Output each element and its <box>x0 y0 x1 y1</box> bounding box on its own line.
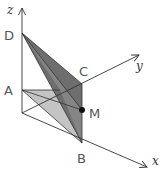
point-M-dot <box>79 107 85 113</box>
geometry-diagram: z y x D A C M B <box>0 0 163 176</box>
point-D-label: D <box>4 28 14 43</box>
point-M-label: M <box>89 106 100 121</box>
y-axis-label: y <box>135 59 143 73</box>
point-C-label: C <box>79 64 88 79</box>
point-B-label: B <box>77 151 86 166</box>
x-axis-label: x <box>152 154 159 168</box>
z-axis-label: z <box>6 3 14 17</box>
point-A-label: A <box>4 83 13 98</box>
